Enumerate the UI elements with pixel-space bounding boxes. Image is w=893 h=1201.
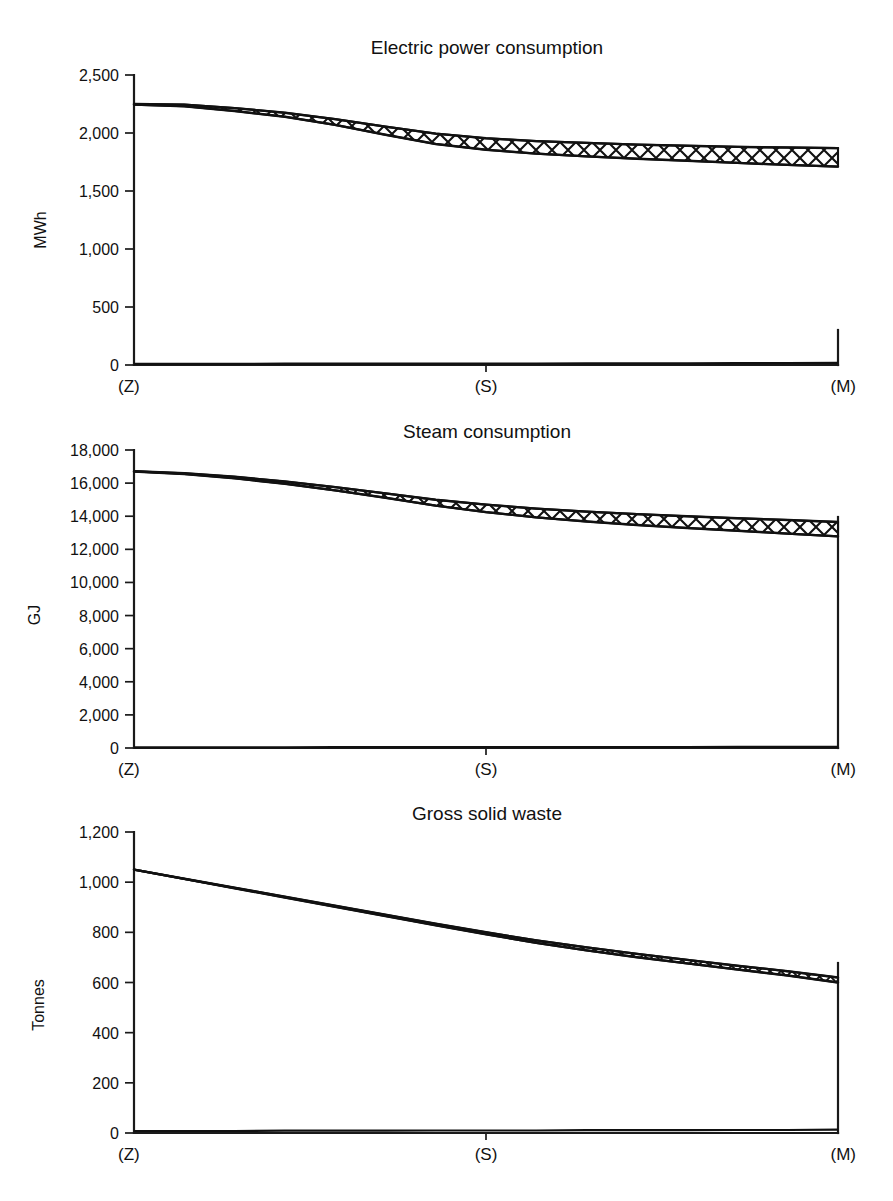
y-tick-label: 16,000 [70,475,119,492]
y-ticks-waste: 02004006008001,0001,200 [79,824,134,1142]
y-tick-label: 2,000 [79,707,119,724]
y-tick-label: 8,000 [79,608,119,625]
x-tick-label: (Z) [118,1145,140,1164]
y-tick-label: 1,000 [79,241,119,258]
x-ticks-waste: (Z)(S)(M) [118,1133,856,1164]
chart-title-steam: Steam consumption [403,421,571,442]
y-tick-label: 14,000 [70,508,119,525]
chart-title-waste: Gross solid waste [412,803,562,824]
chart-svg-waste: Gross solid waste Tonnes 02004006008001,… [0,795,893,1190]
y-tick-label: 6,000 [79,641,119,658]
baseline-series-steam [134,747,838,748]
y-tick-label: 500 [92,299,119,316]
y-axis-title-steam: GJ [26,605,43,625]
y-ticks-electric: 05001,0001,5002,0002,500 [79,67,134,374]
y-tick-label: 0 [110,1125,119,1142]
y-tick-label: 200 [92,1075,119,1092]
y-tick-label: 1,000 [79,874,119,891]
baseline-series-waste [134,1130,838,1131]
chart-title-electric: Electric power consumption [371,37,603,58]
y-ticks-steam: 02,0004,0006,0008,00010,00012,00014,0001… [70,442,134,757]
chart-svg-electric: Electric power consumption MWh 05001,000… [0,30,893,410]
y-tick-label: 0 [110,740,119,757]
chart-panel-steam-consumption: Steam consumption GJ 02,0004,0006,0008,0… [0,415,893,790]
y-tick-label: 10,000 [70,574,119,591]
chart-panel-electric-power-consumption: Electric power consumption MWh 05001,000… [0,30,893,410]
y-tick-label: 400 [92,1025,119,1042]
x-tick-label: (Z) [118,760,140,779]
x-tick-label: (Z) [118,377,140,396]
y-tick-label: 4,000 [79,674,119,691]
y-tick-label: 600 [92,975,119,992]
x-tick-label: (S) [475,1145,498,1164]
y-tick-label: 18,000 [70,442,119,459]
x-tick-label: (M) [831,377,856,396]
y-tick-label: 2,500 [79,67,119,84]
y-tick-label: 800 [92,924,119,941]
y-axis-title-electric: MWh [32,211,49,248]
y-tick-label: 1,500 [79,183,119,200]
y-tick-label: 0 [110,357,119,374]
y-tick-label: 1,200 [79,824,119,841]
x-ticks-steam: (Z)(S)(M) [118,748,856,779]
x-ticks-electric: (Z)(S)(M) [118,365,856,396]
y-tick-label: 2,000 [79,125,119,142]
band-area-electric [134,104,838,167]
chart-svg-steam: Steam consumption GJ 02,0004,0006,0008,0… [0,415,893,790]
x-tick-label: (M) [831,1145,856,1164]
x-tick-label: (M) [831,760,856,779]
y-axis-title-waste: Tonnes [30,979,47,1031]
upper-series-line-waste [134,870,838,978]
figure-page: Electric power consumption MWh 05001,000… [0,0,893,1201]
chart-panel-gross-solid-waste: Gross solid waste Tonnes 02004006008001,… [0,795,893,1190]
baseline-series-electric [134,363,838,364]
y-tick-label: 12,000 [70,541,119,558]
x-tick-label: (S) [475,760,498,779]
x-tick-label: (S) [475,377,498,396]
